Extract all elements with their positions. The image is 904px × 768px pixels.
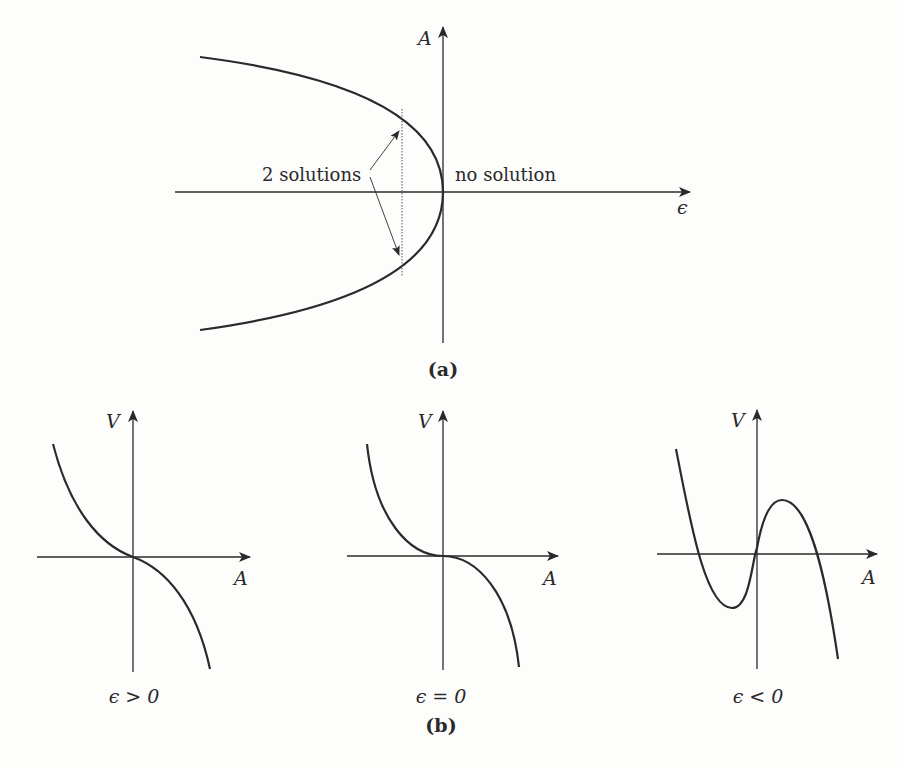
a-axis-label: A bbox=[541, 567, 557, 589]
condition-label: ϵ < 0 bbox=[733, 685, 784, 707]
figure-canvas: A ϵ 2 solutions no solution (a) V A ϵ > … bbox=[0, 0, 904, 768]
a-axis-label: A bbox=[232, 567, 248, 589]
subplot-eps-zero: V A ϵ = 0 (b) bbox=[347, 410, 558, 736]
subplot-eps-positive: V A ϵ > 0 bbox=[37, 410, 250, 707]
condition-label: ϵ > 0 bbox=[109, 685, 160, 707]
v-axis-label: V bbox=[106, 410, 122, 432]
a-axis-label: A bbox=[416, 27, 432, 49]
panel-b-caption: (b) bbox=[425, 714, 456, 736]
a-axis-label: A bbox=[860, 566, 876, 588]
v-axis-label: V bbox=[418, 410, 434, 432]
epsilon-axis-label: ϵ bbox=[677, 196, 688, 218]
arrow-upper-solution bbox=[370, 131, 399, 170]
two-solutions-label: 2 solutions bbox=[262, 164, 361, 185]
v-axis-label: V bbox=[731, 409, 747, 431]
no-solution-label: no solution bbox=[455, 164, 556, 185]
panel-a: A ϵ 2 solutions no solution (a) bbox=[175, 27, 690, 380]
subplot-eps-negative: V A ϵ < 0 bbox=[657, 409, 877, 707]
condition-label: ϵ = 0 bbox=[416, 685, 467, 707]
bifurcation-parabola bbox=[200, 57, 443, 330]
arrow-lower-solution bbox=[370, 177, 399, 255]
panel-a-caption: (a) bbox=[428, 358, 458, 380]
